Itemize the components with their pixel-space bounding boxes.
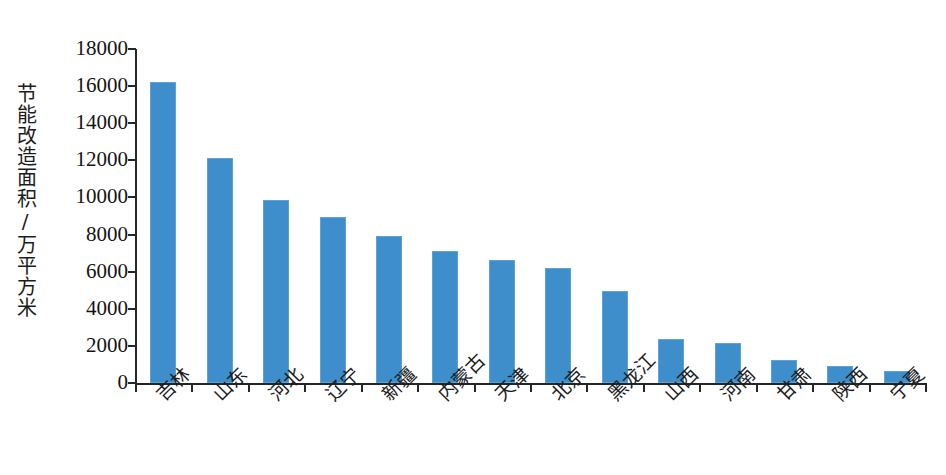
bar (207, 158, 233, 383)
bar-chart-figure: 节能改造面积/万平方米 1800016000140001200010000800… (0, 0, 946, 475)
bar (489, 260, 515, 383)
y-axis-title: 节能改造面积/万平方米 (8, 0, 42, 400)
y-axis-tick-label: 0 (118, 372, 129, 393)
x-axis-tick (925, 383, 927, 392)
y-axis-tick-label: 8000 (86, 224, 128, 245)
y-axis-tick (128, 271, 136, 273)
y-axis-tick (128, 122, 136, 124)
plot-area (135, 49, 925, 385)
y-axis-tick-label: 4000 (86, 298, 128, 319)
y-axis-tick (128, 85, 136, 87)
y-axis-tick (128, 234, 136, 236)
y-axis-title-text: 节能改造面积/万平方米 (15, 83, 35, 318)
bar (376, 236, 402, 383)
y-axis-tick-label: 2000 (86, 335, 128, 356)
y-axis-tick-label: 14000 (76, 112, 129, 133)
y-axis-tick-label: 10000 (76, 186, 129, 207)
y-axis-tick (128, 48, 136, 50)
y-axis-line (135, 49, 137, 385)
y-axis-tick-label: 6000 (86, 261, 128, 282)
y-axis-tick-label: 12000 (76, 149, 129, 170)
y-axis-tick-label: 16000 (76, 75, 129, 96)
bar (150, 82, 176, 383)
x-axis-tick-labels: 吉林山东河北辽宁新疆内蒙古天津北京黑龙江山西河南甘肃陕西宁夏 (135, 385, 925, 475)
y-axis-tick (128, 159, 136, 161)
y-axis-tick-labels: 1800016000140001200010000800060004000200… (40, 49, 128, 385)
bar (545, 268, 571, 383)
bar (432, 251, 458, 383)
bar (320, 217, 346, 383)
y-axis-tick (128, 308, 136, 310)
bar (263, 200, 289, 383)
y-axis-tick (128, 196, 136, 198)
y-axis-tick (128, 345, 136, 347)
y-axis-tick-label: 18000 (76, 38, 129, 59)
